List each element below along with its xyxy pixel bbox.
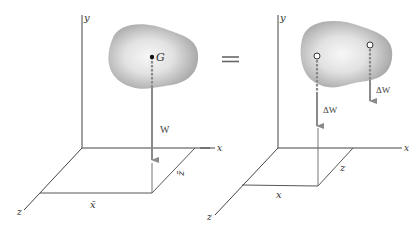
x-line <box>242 185 318 186</box>
center-of-gravity-diagram: y z G W x̄ z̄ y x x z ΔW ΔW <box>0 0 417 235</box>
point-g-label: G <box>156 51 165 64</box>
z-label: z <box>339 162 346 173</box>
z-line <box>318 148 353 186</box>
mass-element-2 <box>367 42 373 48</box>
x-label: x <box>276 189 282 200</box>
mass-element-1 <box>314 53 320 59</box>
x-bar-label: x̄ <box>90 199 96 210</box>
z-axis <box>215 148 278 215</box>
z-axis-label: z <box>16 207 22 217</box>
x-axis-label: x <box>404 143 409 153</box>
element-weight-label-2: ΔW <box>376 85 391 95</box>
left-panel: y z G W x̄ z̄ <box>16 12 210 217</box>
z-bar-label: z̄ <box>175 170 186 177</box>
z-bar-line <box>152 148 195 193</box>
y-axis-label: y <box>83 12 90 23</box>
weight-label: W <box>160 124 170 135</box>
z-axis-label: z <box>206 212 212 222</box>
equals-sign <box>222 57 239 62</box>
right-panel: y x x z ΔW ΔW x z <box>200 12 409 222</box>
center-of-gravity-point <box>150 55 154 59</box>
x-axis-label-left: x <box>217 143 222 153</box>
y-axis-label: y <box>279 12 286 23</box>
element-weight-label-1: ΔW <box>323 105 338 115</box>
z-axis <box>24 148 82 210</box>
